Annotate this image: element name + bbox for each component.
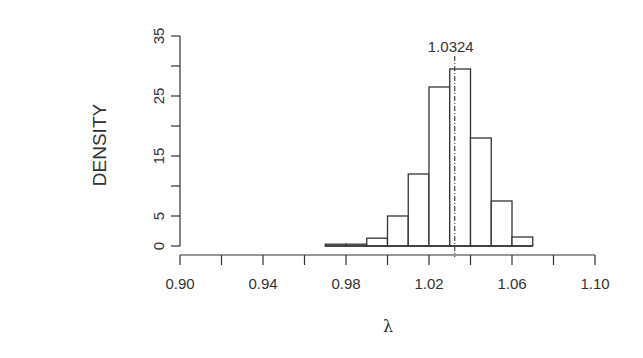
y-tick-label: 15 (150, 148, 167, 165)
histogram-bar (491, 201, 512, 246)
x-tick-label: 0.98 (331, 275, 360, 292)
x-tick-label: 0.94 (248, 275, 277, 292)
y-tick-label: 0 (150, 242, 167, 250)
x-tick-label: 1.10 (580, 275, 609, 292)
histogram-bar (388, 216, 409, 246)
x-tick-label: 1.06 (497, 275, 526, 292)
histogram-bar (408, 174, 429, 246)
histogram-bar (367, 238, 388, 246)
histogram-bar (450, 69, 471, 246)
y-tick-label: 25 (150, 88, 167, 105)
histogram-bar (471, 138, 492, 246)
histogram-bars (325, 69, 533, 246)
histogram-bar (512, 237, 533, 246)
x-axis: 0.900.940.981.021.061.10 (165, 255, 609, 292)
histogram-chart: 05152535 0.900.940.981.021.061.10 DENSIT… (0, 0, 643, 358)
y-tick-label: 35 (150, 28, 167, 45)
x-axis-title: λ (383, 317, 393, 336)
reference-line-label: 1.0324 (428, 38, 474, 55)
x-tick-label: 1.02 (414, 275, 443, 292)
histogram-bar (429, 87, 450, 246)
y-axis-title: DENSITY (89, 104, 110, 187)
y-tick-label: 5 (150, 212, 167, 220)
y-axis: 05152535 (150, 28, 180, 251)
x-tick-label: 0.90 (165, 275, 194, 292)
